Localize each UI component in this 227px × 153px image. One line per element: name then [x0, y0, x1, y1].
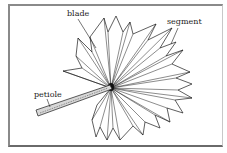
blade-label: blade [67, 10, 89, 18]
segment-leader-line [171, 28, 178, 44]
segment-label: segment [167, 18, 202, 26]
petiole-label: petiole [34, 91, 62, 99]
